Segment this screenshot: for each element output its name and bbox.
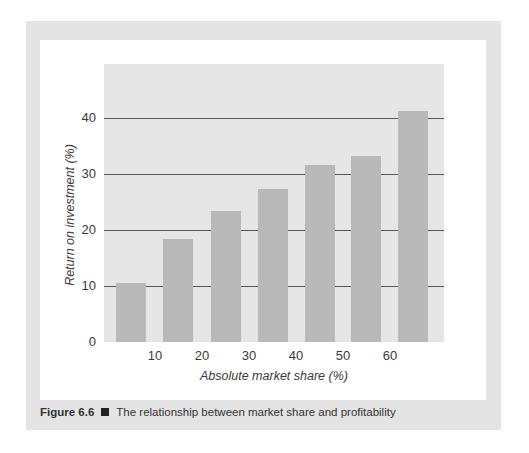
bar (351, 156, 381, 342)
x-tick-label: 30 (234, 348, 264, 363)
bar (258, 189, 288, 342)
bar (305, 165, 335, 342)
bar (116, 283, 146, 342)
caption-text: The relationship between market share an… (116, 406, 395, 418)
bar (211, 211, 241, 342)
x-tick-label: 40 (281, 348, 311, 363)
x-tick-label: 60 (375, 348, 405, 363)
bar (163, 239, 193, 342)
bar (398, 111, 428, 342)
y-tick-label: 40 (66, 110, 96, 125)
y-tick-label: 0 (66, 334, 96, 349)
x-axis-title: Absolute market share (%) (104, 369, 444, 383)
gridline (104, 174, 444, 175)
x-tick-label: 20 (187, 348, 217, 363)
gridline (104, 118, 444, 119)
figure-caption: Figure 6.6The relationship between marke… (40, 406, 396, 418)
x-tick-label: 10 (140, 348, 170, 363)
x-tick-label: 50 (328, 348, 358, 363)
figure-label: Figure 6.6 (40, 406, 94, 418)
black-square-icon (101, 408, 109, 416)
y-axis-title: Return on investment (%) (63, 144, 77, 286)
